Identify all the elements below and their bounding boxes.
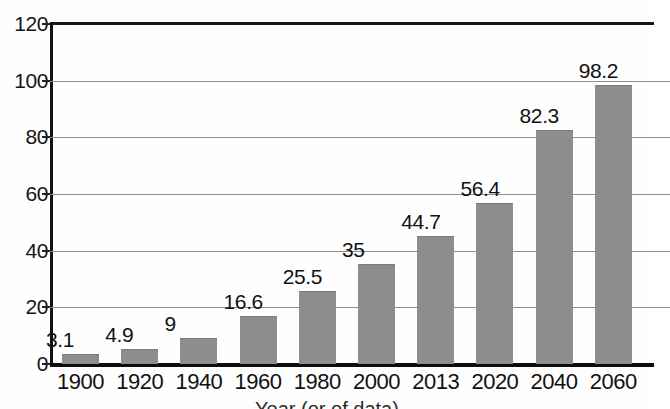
- y-axis-tick-mark: [42, 193, 50, 195]
- bar-value-label: 4.9: [105, 324, 133, 345]
- bar-value-label: 9: [164, 313, 175, 334]
- y-axis-tick-mark: [42, 363, 50, 365]
- x-axis-tick-labels: 1900192019401960198020002013202020402060: [50, 370, 670, 396]
- x-axis-tick-label: 1940: [169, 370, 229, 394]
- bar: [595, 85, 632, 364]
- bar-value-label: 56.4: [460, 178, 499, 199]
- bar: [476, 203, 513, 364]
- bar-value-label: 3.1: [46, 329, 74, 350]
- x-axis-tick-label: 2020: [465, 370, 525, 394]
- x-axis-tick-label: 2000: [347, 370, 407, 394]
- bar: [121, 349, 158, 364]
- y-axis-tick-mark: [42, 136, 50, 138]
- x-axis-tick-label: 1900: [51, 370, 111, 394]
- bar-value-label: 16.6: [224, 291, 263, 312]
- bar: [62, 354, 99, 364]
- bar: [299, 291, 336, 364]
- y-axis-tick-mark: [42, 306, 50, 308]
- bar: [536, 130, 573, 364]
- bar-value-label: 44.7: [401, 211, 440, 232]
- bar: [417, 236, 454, 364]
- x-axis-tick-label: 1920: [110, 370, 170, 394]
- x-axis-tick-label: 2013: [406, 370, 466, 394]
- x-axis-tick-label: 2040: [524, 370, 584, 394]
- bar-value-label: 35: [342, 239, 365, 260]
- y-axis-tick-mark: [42, 250, 50, 252]
- bar: [358, 264, 395, 364]
- bar-value-label: 98.2: [579, 60, 618, 81]
- x-axis-tick-label: 1980: [287, 370, 347, 394]
- x-axis-title: Year (or of data): [0, 398, 654, 409]
- bars-layer: [50, 24, 670, 364]
- y-axis-tick-mark: [42, 80, 50, 82]
- bar: [240, 316, 277, 364]
- x-axis-tick-label: 1960: [228, 370, 288, 394]
- x-axis-tick-label: 2060: [583, 370, 643, 394]
- bar: [180, 338, 217, 365]
- y-axis-tick-labels: 020406080100120: [0, 0, 48, 409]
- y-axis-tick-mark: [42, 23, 50, 25]
- bar-value-label: 82.3: [520, 105, 559, 126]
- bar-value-label: 25.5: [283, 266, 322, 287]
